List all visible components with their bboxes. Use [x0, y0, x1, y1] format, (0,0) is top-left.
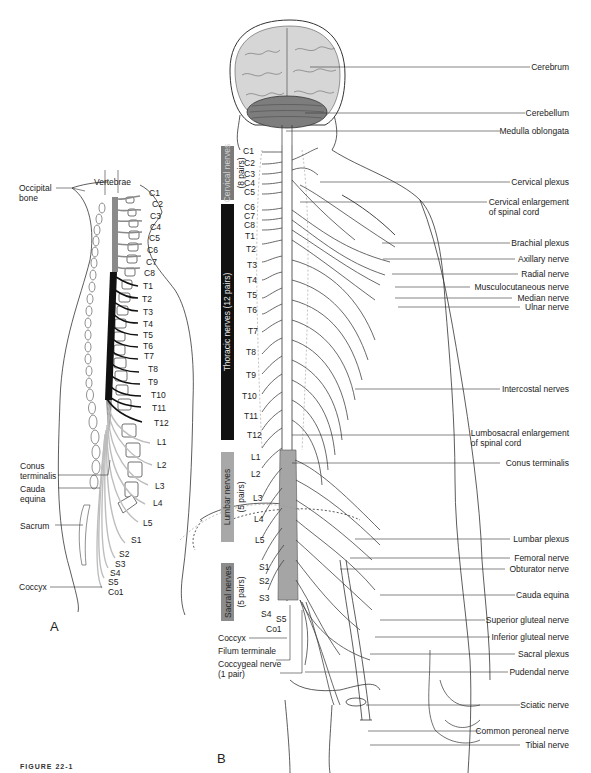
- label-cervical-enlargement: Cervical enlargement of spinal cord: [489, 197, 569, 217]
- segment-a-l3: L3: [155, 481, 164, 491]
- segment-b-t8: T8: [246, 347, 256, 357]
- label-occipital-bone: Occipital bone: [19, 183, 52, 203]
- label-line: (1 pair): [218, 669, 281, 679]
- label-conus-terminalis-b: Conus terminalis: [506, 458, 569, 468]
- segment-a-t6: T6: [143, 341, 153, 351]
- band-lumbar-sub: (5 pairs): [235, 452, 247, 542]
- label-line: terminalis: [20, 471, 56, 481]
- label-lumbosacral-enlargement: Lumbosacral enlargement of spinal cord: [471, 428, 569, 448]
- segment-a-c3: C3: [150, 211, 161, 221]
- panel-a-spinous-processes: [79, 203, 105, 565]
- segment-a-c2: C2: [152, 199, 163, 209]
- segment-b-c1: C1: [243, 146, 254, 156]
- label-line: Lumbosacral enlargement: [471, 428, 569, 438]
- label-line: Cervical enlargement: [489, 197, 569, 207]
- label-cauda-equina-b: Cauda equina: [516, 590, 569, 600]
- segment-b-s4: S4: [261, 609, 271, 619]
- label-ulnar-nerve: Ulnar nerve: [525, 302, 569, 312]
- label-line: of spinal cord: [489, 207, 569, 217]
- label-line: bone: [19, 193, 52, 203]
- segment-a-t11: T11: [152, 403, 166, 413]
- segment-a-c7: C7: [146, 257, 157, 267]
- segment-b-t11: T11: [244, 411, 258, 421]
- label-femoral-nerve: Femoral nerve: [514, 553, 569, 563]
- segment-a-c1: C1: [149, 188, 160, 198]
- band-sacral-sub: (5 pairs): [235, 563, 247, 621]
- segment-a-l4: L4: [153, 498, 162, 508]
- segment-a-t5: T5: [143, 330, 153, 340]
- segment-a-c4: C4: [150, 222, 161, 232]
- band-label: Cervical nerves: [223, 144, 233, 203]
- segment-b-c2: C2: [244, 158, 255, 168]
- segment-a-l1: L1: [157, 437, 166, 447]
- segment-a-t10: T10: [151, 390, 166, 400]
- panel-b-spinal-cord: [278, 145, 298, 600]
- segment-a-t7: T7: [144, 351, 154, 361]
- segment-a-c6: C6: [147, 245, 158, 255]
- segment-a-l2: L2: [157, 460, 166, 470]
- label-sacrum: Sacrum: [20, 521, 49, 531]
- label-lumbar-plexus: Lumbar plexus: [513, 534, 569, 544]
- segment-b-l5: L5: [255, 535, 264, 545]
- segment-b-t12: T12: [247, 430, 262, 440]
- segment-a-s1: S1: [131, 535, 141, 545]
- segment-a-t8: T8: [148, 364, 158, 374]
- label-musculocutaneous-nerve: Musculocutaneous nerve: [474, 282, 569, 292]
- label-intercostal-nerves: Intercostal nerves: [502, 384, 569, 394]
- band-sub-label: (5 pairs): [236, 481, 246, 512]
- label-sacral-plexus: Sacral plexus: [518, 649, 569, 659]
- label-line: Cauda: [20, 484, 46, 494]
- segment-a-c8: C8: [144, 268, 155, 278]
- segment-a-t2: T2: [142, 294, 152, 304]
- panel-label-a: A: [50, 622, 59, 632]
- label-coccyx-a: Coccyx: [19, 582, 47, 592]
- band-cervical: Cervical nerves: [221, 146, 234, 200]
- panel-b-leader-lines-right: [286, 67, 530, 745]
- segment-b-t2: T2: [246, 244, 256, 254]
- segment-b-t9: T9: [246, 370, 256, 380]
- band-label: Sacral nerves: [223, 566, 233, 618]
- segment-b-s2: S2: [259, 576, 269, 586]
- label-pudendal-nerve: Pudendal nerve: [509, 667, 569, 677]
- band-lumbar: Lumbar nerves: [221, 452, 234, 542]
- segment-a-t4: T4: [143, 319, 153, 329]
- label-tibial-nerve: Tibial nerve: [525, 740, 569, 750]
- segment-a-t3: T3: [143, 307, 153, 317]
- segment-b-s3: S3: [259, 593, 269, 603]
- segment-a-c5: C5: [149, 233, 160, 243]
- segment-b-t7: T7: [248, 326, 258, 336]
- panel-b-hand: [429, 650, 480, 743]
- segment-a-t9: T9: [148, 377, 158, 387]
- label-cervical-plexus: Cervical plexus: [511, 177, 569, 187]
- label-coccygeal-nerve: Coccygeal nerve (1 pair): [218, 659, 281, 679]
- label-conus-terminalis-a: Conus terminalis: [20, 461, 56, 481]
- segment-b-t5: T5: [247, 290, 257, 300]
- panel-b-sciatic: [340, 560, 372, 720]
- segment-b-s1: S1: [259, 562, 269, 572]
- panel-b-nerves-right: [292, 148, 395, 705]
- label-brachial-plexus: Brachial plexus: [511, 238, 569, 248]
- label-cauda-equina-a: Cauda equina: [20, 484, 46, 504]
- label-line: Conus: [20, 461, 56, 471]
- segment-a-l5: L5: [143, 518, 152, 528]
- panel-b-brain: [230, 20, 345, 145]
- segment-a-t1: T1: [143, 281, 153, 291]
- label-cerebrum: Cerebrum: [531, 62, 569, 72]
- label-inferior-gluteal-nerve: Inferior gluteal nerve: [492, 632, 570, 642]
- label-line: equina: [20, 494, 46, 504]
- segment-a-s5: S5: [108, 577, 118, 587]
- segment-b-t10: T10: [242, 391, 257, 401]
- segment-b-l3: L3: [253, 493, 262, 503]
- band-sub-label: (5 pairs): [236, 576, 246, 607]
- segment-b-l4: L4: [254, 514, 263, 524]
- segment-a-co1: Co1: [108, 587, 124, 597]
- label-line: Occipital: [19, 183, 52, 193]
- label-filum-terminale: Filum terminale: [218, 646, 276, 656]
- label-radial-nerve: Radial nerve: [521, 269, 569, 279]
- segment-b-t1: T1: [245, 231, 255, 241]
- label-axillary-nerve: Axillary nerve: [518, 254, 569, 264]
- label-line: Coccygeal nerve: [218, 659, 281, 669]
- label-sciatic-nerve: Sciatic nerve: [520, 700, 569, 710]
- figure-caption: FIGURE 22-1: [20, 763, 73, 770]
- segment-b-l1: L1: [251, 452, 260, 462]
